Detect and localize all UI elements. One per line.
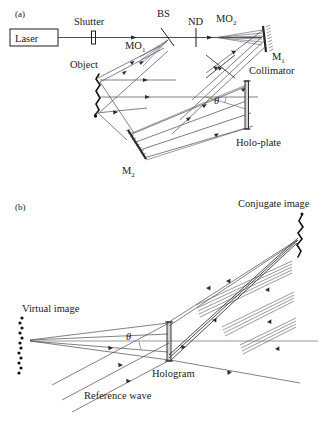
mirror-2	[126, 129, 146, 159]
beam-arrow-2-icon	[207, 35, 213, 39]
virtual-image-label: Virtual image	[22, 303, 80, 314]
panel-a-group: (a) Laser Shutter BS ND	[10, 8, 295, 179]
conj-arrow-2-icon	[206, 286, 211, 291]
theta-arc-b	[139, 341, 141, 349]
nd-label: ND	[188, 16, 204, 27]
conjugate-image-top-dot	[301, 213, 304, 216]
ref-wave-arrow-2-icon	[118, 363, 123, 368]
figure-root: (a) Laser Shutter BS ND	[0, 0, 329, 423]
bs-label: BS	[157, 8, 170, 19]
ray-arrow-scat1-icon	[143, 78, 148, 82]
diffusing-object	[95, 74, 100, 115]
conjugate-image-label: Conjugate image	[238, 198, 310, 209]
conjugate-image-shape	[297, 215, 303, 257]
bundle-arrow-2-icon	[267, 319, 271, 324]
ray-arrow-obj2-icon	[139, 61, 144, 65]
object-scattered-rays	[96, 80, 258, 113]
beam-envelope-a	[132, 85, 247, 160]
diffracted-bundle-middle	[222, 292, 294, 336]
holo-plate-label: Holo-plate	[236, 137, 281, 148]
collimator-label: Collimator	[249, 65, 295, 76]
bundle-arrow-1-icon	[265, 287, 269, 292]
panel-b-group: (b) Conjugate image Hologram	[15, 198, 318, 412]
diffracted-bundle-lower	[240, 318, 296, 354]
reference-wave-label: Reference wave	[84, 390, 152, 401]
ray-arrow-scat2-icon	[145, 95, 150, 99]
ray-arrow-obj3-icon	[122, 71, 127, 75]
mirror-1	[263, 25, 273, 52]
laser-label: Laser	[15, 33, 39, 44]
hologram-label: Hologram	[152, 368, 195, 379]
mo2-label: MO2	[216, 13, 237, 27]
object-label: Object	[70, 59, 98, 70]
ray-arrow-m2b-icon	[186, 117, 191, 121]
theta-arc	[225, 97, 227, 103]
ray-arrow-m2c-icon	[214, 133, 219, 137]
virtual-image-shape	[17, 316, 23, 374]
ref-wave-arrow-1-icon	[108, 346, 113, 351]
theta-label-b: θ	[126, 331, 131, 342]
mo1-label: MO1	[125, 40, 146, 54]
beam-arrow-1-icon	[131, 35, 137, 39]
ref-wave-arrow-3-icon	[126, 379, 131, 384]
m2-label: M2	[122, 165, 135, 179]
shutter-label: Shutter	[74, 16, 105, 27]
m1-label: M1	[272, 51, 285, 65]
bundle-arrow-3-icon	[275, 346, 279, 351]
object-end-dot	[94, 114, 97, 117]
panel-a-tag: (a)	[15, 9, 25, 19]
object-illumination-rays	[98, 46, 168, 112]
panel-b-tag: (b)	[15, 202, 26, 212]
m1-reflected-fan	[172, 30, 266, 134]
conj-arrow-1-icon	[226, 279, 231, 284]
optics-diagram: (a) Laser Shutter BS ND	[0, 0, 329, 423]
ray-arrow-m1b-icon	[213, 66, 218, 70]
holographic-plate	[244, 81, 251, 129]
